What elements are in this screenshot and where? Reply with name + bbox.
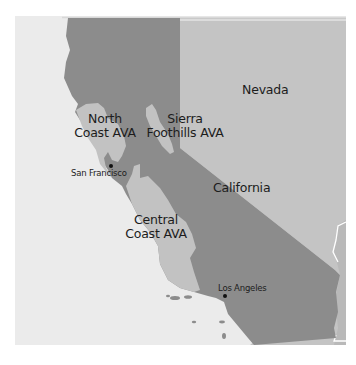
central-coast-ava-label: Central Coast AVA: [121, 213, 191, 242]
california-ava-map: [0, 0, 356, 365]
north-coast-ava-label-line1: North: [72, 112, 138, 126]
north-coast-ava-label: North Coast AVA: [72, 112, 138, 141]
island: [222, 333, 226, 339]
california-label: California: [213, 181, 270, 195]
north-coast-ava-label-line2: Coast AVA: [72, 126, 138, 140]
sierra-foothills-ava-label-line1: Sierra: [143, 112, 227, 126]
san-francisco-label: San Francisco: [71, 169, 127, 179]
island: [166, 295, 170, 297]
nevada-label: Nevada: [242, 83, 289, 97]
central-coast-ava-label-line2: Coast AVA: [121, 227, 191, 241]
sierra-foothills-ava-label: Sierra Foothills AVA: [143, 112, 227, 141]
city-dot-icon: [223, 294, 227, 298]
island: [192, 321, 196, 323]
island: [219, 321, 225, 324]
island: [170, 296, 180, 300]
central-coast-ava-label-line1: Central: [121, 213, 191, 227]
sierra-foothills-ava-label-line2: Foothills AVA: [143, 126, 227, 140]
los-angeles-label: Los Angeles: [218, 284, 267, 294]
island: [184, 295, 192, 299]
